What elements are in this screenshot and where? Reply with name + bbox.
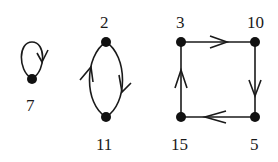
cycle-four-node: 3 10 5 15 <box>171 13 264 154</box>
node-label-10: 10 <box>247 13 264 32</box>
node-15 <box>176 112 186 122</box>
node-label-5: 5 <box>250 135 259 154</box>
cycle-two-node: 2 11 <box>80 13 131 154</box>
node-10 <box>250 37 260 47</box>
cycle-self-loop: 7 <box>21 42 48 115</box>
node-3 <box>176 37 186 47</box>
node-11 <box>101 112 111 122</box>
node-label-2: 2 <box>100 13 109 32</box>
node-7 <box>27 74 37 84</box>
node-label-7: 7 <box>26 96 35 115</box>
cycle-diagram: 7 2 11 3 10 5 15 <box>0 0 278 162</box>
arrowhead-icon <box>80 67 93 82</box>
node-label-15: 15 <box>171 135 188 154</box>
node-label-11: 11 <box>96 135 112 154</box>
edge-7-7 <box>21 42 42 78</box>
node-label-3: 3 <box>176 13 185 32</box>
node-2 <box>101 37 111 47</box>
arrowhead-icon <box>119 75 131 92</box>
node-5 <box>250 112 260 122</box>
